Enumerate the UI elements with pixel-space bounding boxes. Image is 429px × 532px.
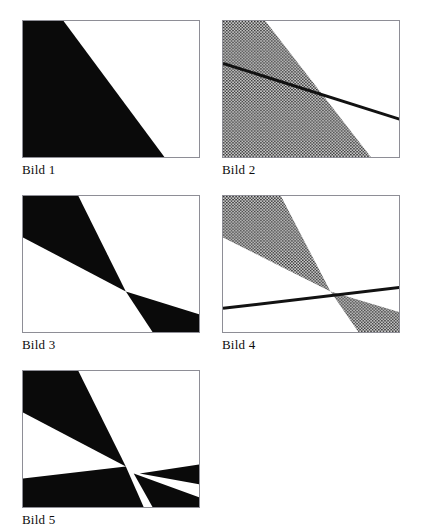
figure-frame-bild-2 bbox=[222, 20, 400, 158]
figure-caption-bild-2: Bild 2 bbox=[222, 162, 255, 177]
region-lower-left-band bbox=[23, 467, 144, 507]
figure-frame-bild-4 bbox=[222, 195, 400, 333]
figure-graphic-bild-4 bbox=[223, 196, 400, 332]
region-lower-wedge bbox=[126, 292, 199, 332]
figure-graphic-bild-1 bbox=[23, 21, 199, 157]
region-upper-wedge bbox=[23, 196, 126, 292]
figure-graphic-bild-2 bbox=[223, 21, 400, 157]
region-upper-wedge bbox=[23, 371, 126, 467]
figure-caption-bild-4: Bild 4 bbox=[222, 337, 255, 352]
region-half-plane bbox=[23, 21, 164, 157]
figure-frame-bild-3 bbox=[22, 195, 200, 333]
figure-frame-bild-1 bbox=[22, 20, 200, 158]
region-lower-wedge bbox=[331, 292, 400, 332]
figure-graphic-bild-5 bbox=[23, 371, 199, 507]
region-upper-wedge bbox=[223, 196, 331, 292]
figure-frame-bild-5 bbox=[22, 370, 200, 508]
figure-caption-bild-5: Bild 5 bbox=[22, 512, 55, 527]
figure-caption-bild-1: Bild 1 bbox=[22, 162, 55, 177]
figure-graphic-bild-3 bbox=[23, 196, 199, 332]
figure-caption-bild-3: Bild 3 bbox=[22, 337, 55, 352]
region-half-plane bbox=[223, 21, 371, 157]
